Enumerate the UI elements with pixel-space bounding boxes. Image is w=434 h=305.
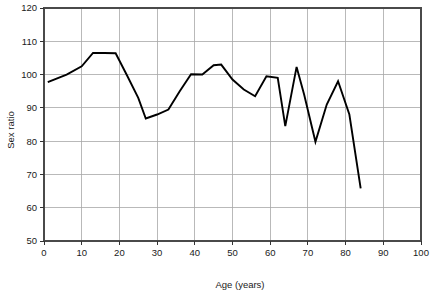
tick-label-x: 0 — [41, 247, 46, 258]
sex-ratio-line-chart: 5060708090100110120 01020304050607080901… — [0, 0, 434, 305]
tick-label-y: 70 — [26, 169, 37, 180]
y-axis-title: Sex ratio — [5, 111, 16, 149]
chart-background — [0, 0, 434, 305]
tick-label-y: 50 — [26, 235, 37, 246]
tick-label-x: 70 — [303, 247, 314, 258]
tick-label-y: 100 — [21, 69, 37, 80]
tick-label-x: 90 — [378, 247, 389, 258]
tick-label-y: 110 — [22, 36, 37, 47]
chart-svg: 5060708090100110120 01020304050607080901… — [0, 0, 434, 305]
tick-label-y: 120 — [21, 2, 37, 13]
tick-label-x: 50 — [227, 247, 238, 258]
tick-label-x: 30 — [152, 247, 163, 258]
tick-label-x: 40 — [190, 247, 201, 258]
tick-label-y: 90 — [26, 102, 37, 113]
tick-label-x: 10 — [76, 247, 87, 258]
tick-label-y: 80 — [26, 136, 37, 147]
tick-label-y: 60 — [26, 202, 37, 213]
tick-label-x: 20 — [114, 247, 125, 258]
tick-label-x: 60 — [265, 247, 276, 258]
tick-label-x: 100 — [413, 247, 429, 258]
x-axis-title: Age (years) — [215, 279, 264, 290]
tick-label-x: 80 — [340, 247, 351, 258]
